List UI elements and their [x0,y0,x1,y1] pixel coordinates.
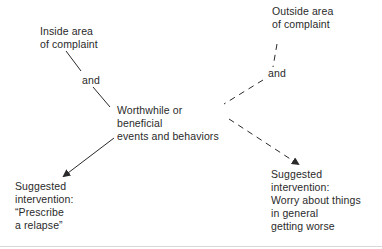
node-worthwhile-events: Worthwhile or beneficial events and beha… [117,104,219,143]
edge-and-to-worthwhile [93,87,110,107]
node-and-right: and [268,67,286,80]
node-and-left: and [82,74,100,87]
bottom-divider [0,246,382,247]
edge-inside-to-and [66,51,81,71]
node-outside-area-of-complaint: Outside area of complaint [272,5,333,31]
edge-worthwhile-to-prescribe-relapse [64,138,114,176]
edge-and-to-worthwhile-dashed [224,80,263,104]
edge-outside-to-and [273,44,277,67]
node-inside-area-of-complaint: Inside area of complaint [40,25,98,51]
node-intervention-worry: Suggested intervention: Worry about thin… [271,168,361,233]
edge-worthwhile-to-worry [229,119,298,164]
node-intervention-prescribe-relapse: Suggested intervention: “Prescribe a rel… [15,180,74,232]
